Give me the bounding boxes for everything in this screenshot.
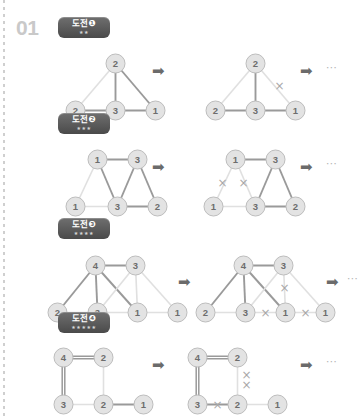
graph-node[interactable]: 1 [88,150,107,169]
edge-removed-cross-icon: × [238,176,248,190]
graph-node[interactable]: 2 [196,303,215,322]
challenge-badge-3: 도전❸★★★★ [58,218,110,239]
node-label: 2 [253,58,258,69]
graph-node[interactable]: 3 [266,150,285,169]
node-label: 1 [153,105,159,116]
graph-node[interactable]: 3 [54,395,73,414]
node-label: 2 [101,352,106,363]
graph-node[interactable]: 3 [274,256,293,275]
graph-node[interactable]: 1 [128,303,147,322]
node-label: 1 [233,154,239,165]
graph-node[interactable]: 1 [66,197,85,216]
edge-removed-cross-icon: × [274,79,284,93]
node-label: 4 [93,260,99,271]
challenge-badge-label: 도전❷ [58,114,110,124]
graph-node[interactable]: 1 [286,101,305,120]
graph-node[interactable]: 2 [228,395,247,414]
node-label: 1 [211,201,217,212]
edge-removed-cross-icon: × [217,176,227,190]
page-binding-edge [3,0,5,419]
transform-arrow-icon: ➡ [300,64,313,79]
graph-node[interactable]: 2 [228,348,247,367]
difficulty-stars: ★★★★ [58,230,110,236]
node-label: 3 [253,201,258,212]
graph-node[interactable]: 1 [134,395,153,414]
transform-arrow-icon: ➡ [300,358,313,373]
graph-node[interactable]: 3 [108,197,127,216]
graph-node[interactable]: 2 [94,395,113,414]
node-label: 2 [235,352,240,363]
difficulty-stars: ★★★ [58,125,110,131]
graph-node[interactable]: 1 [204,197,223,216]
challenge-badge-2: 도전❷★★★ [58,113,110,134]
node-label: 1 [323,307,329,318]
edge-removed-cross-icon: × [260,306,270,320]
node-label: 3 [273,154,278,165]
challenge-badge-label: 도전❶ [58,18,110,28]
graph-node[interactable]: 2 [94,348,113,367]
challenge-badge-label: 도전❹ [58,313,110,323]
node-label: 1 [135,307,141,318]
node-label: 1 [275,399,281,410]
challenge-badge-label: 도전❸ [58,219,110,229]
graph-node[interactable]: 2 [286,197,305,216]
graph-after-1: 2231× [196,46,311,126]
node-label: 2 [113,58,118,69]
node-label: 1 [175,307,181,318]
continuation-ellipsis: ⋯ [326,356,338,367]
node-label: 3 [135,154,140,165]
graph-node[interactable]: 4 [54,348,73,367]
node-label: 4 [61,352,67,363]
edge-removed-cross-icon: × [279,281,289,295]
graph-node[interactable]: 3 [128,150,147,169]
node-label: 1 [293,105,299,116]
graph-node[interactable]: 2 [206,101,225,120]
node-label: 3 [281,260,286,271]
node-label: 2 [101,399,106,410]
node-label: 2 [203,307,208,318]
graph-node[interactable]: 3 [246,197,265,216]
graph-node[interactable]: 1 [168,303,187,322]
node-label: 2 [213,105,218,116]
graph-before-4: 42321 [46,340,159,419]
graph-node[interactable]: 4 [234,256,253,275]
edge-removed-cross-icon: × [212,398,222,412]
node-label: 3 [113,105,118,116]
graph-node[interactable]: 3 [246,101,265,120]
graph-node[interactable]: 2 [246,54,265,73]
graph-node[interactable]: 4 [86,256,105,275]
graph-node[interactable]: 1 [276,303,295,322]
node-label: 4 [195,352,201,363]
edge-removed-cross-icon: × [241,378,251,392]
graph-node[interactable]: 3 [236,303,255,322]
transform-arrow-icon: ➡ [152,160,165,175]
graph-node[interactable]: 1 [268,395,287,414]
graph-after-2: 13132×× [196,142,311,222]
transform-arrow-icon: ➡ [152,358,165,373]
challenge-badge-1: 도전❶★★ [58,17,110,38]
transform-arrow-icon: ➡ [178,275,191,290]
difficulty-stars: ★★ [58,29,110,35]
node-label: 2 [155,201,160,212]
transform-arrow-icon: ➡ [326,275,339,290]
graph-node[interactable]: 2 [106,54,125,73]
graph-node[interactable]: 2 [148,197,167,216]
difficulty-stars: ★★★★★ [58,324,110,330]
page-title: 01 [16,17,38,38]
node-label: 2 [293,201,298,212]
node-label: 3 [195,399,200,410]
node-label: 3 [243,307,248,318]
graph-node[interactable]: 3 [188,395,207,414]
continuation-ellipsis: ⋯ [326,62,338,73]
graph-node[interactable]: 1 [226,150,245,169]
graph-after-4: 42321××× [180,340,293,419]
transform-arrow-icon: ➡ [152,64,165,79]
node-label: 1 [95,154,101,165]
graph-node[interactable]: 4 [188,348,207,367]
transform-arrow-icon: ➡ [300,160,313,175]
node-label: 4 [241,260,247,271]
node-label: 2 [235,399,240,410]
graph-node[interactable]: 1 [146,101,165,120]
graph-node[interactable]: 3 [126,256,145,275]
graph-node[interactable]: 1 [316,303,335,322]
